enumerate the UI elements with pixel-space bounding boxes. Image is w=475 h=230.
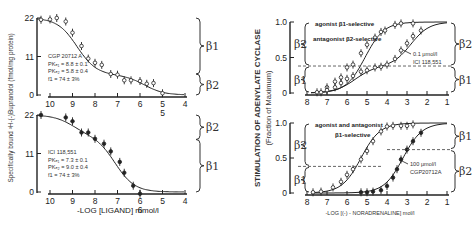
data-point-s0: [331, 186, 335, 190]
data-point-s1: [395, 167, 399, 171]
panel-cyclase-cgp: 00.51.087654321agonist and antagonistβ1-…: [275, 118, 472, 207]
x-tick-label: 4: [183, 196, 188, 206]
brace: [196, 74, 204, 95]
data-point-s1: [359, 70, 363, 74]
data-point-s1: [371, 190, 375, 194]
x-tick-label: 8: [93, 196, 98, 206]
data-point: [80, 44, 84, 48]
right-y-axis-label: STIMULATION OF ADENYLATE CYCLASE: [253, 28, 262, 187]
fit-curve-1: [311, 23, 447, 93]
beta-label-left: β2: [294, 38, 307, 51]
legend-text: f1 = 74 ± 3%: [48, 76, 80, 82]
legend-text: ICI 118,551: [48, 149, 77, 155]
data-point-s0: [333, 80, 337, 84]
data-point: [109, 150, 113, 154]
data-point-s0: [311, 191, 315, 195]
data-point-s1: [359, 191, 363, 195]
fit-curve-0: [311, 123, 447, 193]
beta-label-right: β1: [459, 74, 472, 87]
data-point: [152, 81, 156, 85]
data-point: [161, 91, 165, 95]
data-point-s0: [411, 22, 415, 26]
y-tick-label: 0.5: [275, 53, 287, 63]
x-tick-label: 2: [425, 197, 430, 207]
data-point-s0: [359, 51, 363, 55]
annotation-text: 0.1 μmol/l: [413, 51, 437, 57]
beta-label: β1: [206, 40, 219, 53]
brace: [196, 18, 204, 74]
data-point: [138, 79, 142, 83]
x-tick-label: 7: [115, 99, 120, 109]
x-tick-label: 5: [160, 196, 165, 206]
data-point-s0: [405, 124, 409, 128]
data-point-s0: [391, 124, 395, 128]
y-tick-label: 1.0: [275, 118, 287, 128]
x-tick-label: 7: [325, 197, 330, 207]
brace-right: [451, 23, 459, 65]
figure: Specifically bound ³H-(-)Bupranolol (fmo…: [0, 0, 475, 230]
panel-cyclase-ici: 00.51.087654321agonist β1-selectiveantag…: [275, 17, 472, 107]
data-point: [122, 171, 126, 175]
data-point: [55, 16, 59, 20]
brace: [196, 115, 204, 140]
data-point: [122, 79, 126, 83]
data-point: [138, 192, 142, 196]
panel-binding-cgp: 0112210987654CGP 20712 APKₑ₁ = 8.8 ± 0.1…: [25, 13, 220, 118]
data-point-s1: [379, 188, 383, 192]
y-tick-label: 22: [25, 13, 35, 23]
x-marker-label: 5: [160, 108, 165, 118]
brace-right: [451, 67, 459, 92]
data-point-s1: [325, 88, 329, 92]
x-marker-label: 6: [138, 205, 143, 215]
data-point-s1: [393, 57, 397, 61]
data-point-s1: [391, 176, 395, 180]
y-tick-label: 11: [25, 52, 34, 62]
data-point: [100, 63, 104, 67]
annotation-text: 100 μmol/l: [410, 161, 436, 167]
data-point: [64, 116, 68, 120]
brace-right: [451, 151, 459, 192]
y-tick-label: 0: [282, 88, 287, 98]
data-point: [145, 82, 149, 86]
data-point-s0: [319, 190, 323, 194]
y-tick-label: 1.0: [275, 17, 287, 27]
x-tick-label: 10: [45, 196, 55, 206]
data-point-s0: [365, 43, 369, 47]
data-point-s1: [411, 34, 415, 38]
data-point-s1: [345, 77, 349, 81]
data-point-s0: [393, 23, 397, 27]
annotation-text: CGP20712A: [410, 169, 442, 175]
y-tick-label: 11: [25, 149, 34, 159]
x-tick-label: 5: [365, 97, 370, 107]
data-point-s0: [359, 158, 363, 162]
legend-text: β1-selective: [335, 131, 371, 138]
data-point-s0: [379, 30, 383, 34]
data-point-s1: [385, 184, 389, 188]
panel-binding-ici: 0112210987654ICI 118,551PKₑ₁ = 7.3 ± 0.1…: [25, 110, 220, 215]
left-x-axis-label: -LOG [LIGAND] mmol/l: [77, 206, 159, 215]
legend-text: antagonist β2-selective: [313, 35, 382, 42]
data-point: [116, 73, 120, 77]
beta-label-right: β2: [459, 38, 472, 51]
data-point: [131, 184, 135, 188]
data-point-s1: [339, 81, 343, 85]
data-point: [129, 79, 133, 83]
x-tick-label: 2: [425, 97, 430, 107]
data-point-s0: [351, 167, 355, 171]
x-tick-label: 8: [93, 99, 98, 109]
x-tick-label: 7: [115, 196, 120, 206]
data-point: [109, 72, 113, 76]
data-point-s1: [419, 131, 423, 135]
y-tick-label: 22: [25, 110, 35, 120]
data-point: [93, 137, 97, 141]
legend-text: PKₑ₁ = 7.3 ± 0.1: [48, 157, 88, 163]
beta-label: β2: [206, 121, 219, 134]
data-point-s1: [351, 74, 355, 78]
y-tick-label: 0: [282, 188, 287, 198]
beta-label-left: β1: [294, 174, 307, 187]
beta-label-left: β1: [294, 74, 307, 87]
annotation-text: ICI 118,551: [413, 59, 442, 65]
left-y-axis-label: Specifically bound ³H-(-)Bupranolol (fmo…: [7, 33, 15, 182]
x-tick-label: 3: [405, 197, 410, 207]
data-point: [118, 160, 122, 164]
